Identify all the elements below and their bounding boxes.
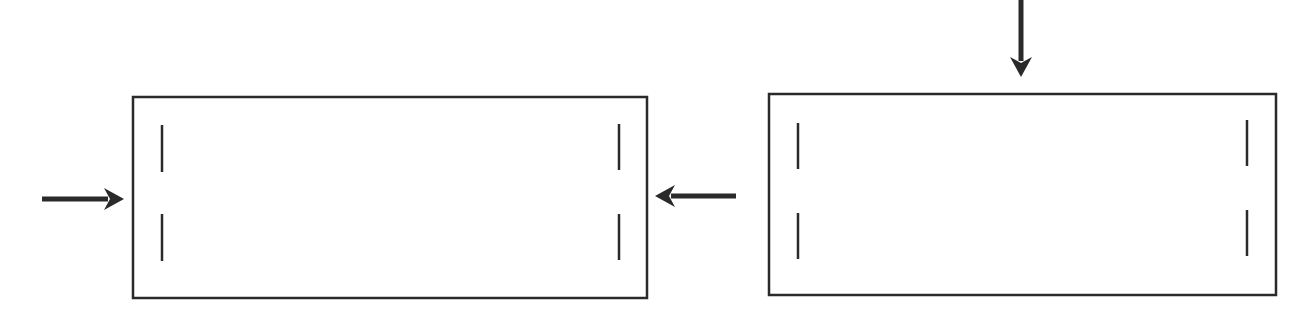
- panel-border: [769, 94, 1276, 295]
- right-panel: [769, 94, 1276, 295]
- panel-border: [133, 97, 647, 298]
- arrow-down-into-right-panel-icon: [1010, 0, 1032, 77]
- arrows-group: [42, 0, 1032, 210]
- diagram-canvas: [0, 0, 1311, 323]
- arrow-left-into-left-panel-icon: [655, 185, 736, 207]
- arrow-right-into-left-panel-icon: [42, 188, 124, 210]
- left-panel: [133, 97, 647, 298]
